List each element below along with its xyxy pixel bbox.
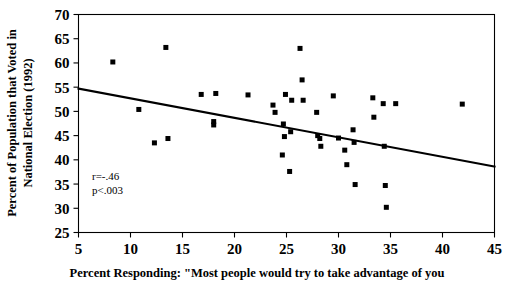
x-tick-label: 40 bbox=[435, 241, 450, 257]
data-point bbox=[352, 140, 357, 145]
regression-trend-line bbox=[79, 89, 495, 167]
correlation-annotation: r=-.46 bbox=[92, 170, 120, 182]
data-point bbox=[280, 152, 285, 157]
pvalue-annotation: p<.003 bbox=[92, 184, 123, 196]
x-tick-label: 30 bbox=[331, 241, 346, 257]
data-point bbox=[165, 136, 170, 141]
data-point bbox=[460, 102, 465, 107]
y-tick-label: 50 bbox=[55, 104, 70, 120]
data-point bbox=[336, 136, 341, 141]
y-tick-label: 55 bbox=[55, 80, 70, 96]
data-point bbox=[382, 144, 387, 149]
data-point bbox=[298, 46, 303, 51]
data-point bbox=[246, 92, 251, 97]
y-tick-label: 45 bbox=[55, 128, 70, 144]
data-point bbox=[300, 77, 305, 82]
data-point bbox=[381, 101, 386, 106]
data-point bbox=[282, 134, 287, 139]
x-tick-label: 10 bbox=[123, 241, 138, 257]
data-point bbox=[213, 91, 218, 96]
data-point bbox=[273, 110, 278, 115]
x-tick-label: 20 bbox=[227, 241, 242, 257]
data-point bbox=[199, 92, 204, 97]
data-point bbox=[301, 98, 306, 103]
y-tick-label: 65 bbox=[55, 31, 70, 47]
y-axis-ticks bbox=[74, 15, 79, 233]
y-axis-title-line2: National Election (1992) bbox=[21, 58, 35, 187]
y-tick-label: 25 bbox=[55, 225, 70, 241]
data-point bbox=[351, 127, 356, 132]
data-point bbox=[344, 162, 349, 167]
x-tick-label: 35 bbox=[383, 241, 398, 257]
data-point bbox=[314, 110, 319, 115]
data-point bbox=[317, 136, 322, 141]
data-point bbox=[211, 122, 216, 127]
data-point bbox=[289, 98, 294, 103]
x-tick-label: 45 bbox=[487, 241, 502, 257]
data-point bbox=[163, 45, 168, 50]
y-axis-tick-labels: 25303540455055606570 bbox=[55, 7, 70, 241]
data-point bbox=[152, 140, 157, 145]
data-point bbox=[384, 205, 389, 210]
trend-line-group bbox=[79, 89, 495, 167]
x-tick-label: 15 bbox=[175, 241, 190, 257]
data-point bbox=[370, 95, 375, 100]
data-point bbox=[393, 101, 398, 106]
y-axis-title-line1: Percent of Population that Voted in bbox=[5, 29, 19, 217]
chart-canvas: 25303540455055606570 51015202530354045 r… bbox=[0, 0, 514, 287]
x-tick-label: 25 bbox=[279, 241, 294, 257]
plot-frame bbox=[79, 15, 495, 233]
data-point bbox=[383, 183, 388, 188]
y-tick-label: 30 bbox=[55, 201, 70, 217]
data-point bbox=[318, 144, 323, 149]
x-axis-title: Percent Responding: "Most people would t… bbox=[70, 266, 445, 280]
data-point bbox=[136, 107, 141, 112]
data-point bbox=[110, 59, 115, 64]
data-point bbox=[283, 92, 288, 97]
x-axis-ticks bbox=[79, 233, 495, 238]
data-point bbox=[371, 115, 376, 120]
y-tick-label: 35 bbox=[55, 177, 70, 193]
data-point bbox=[270, 103, 275, 108]
x-tick-label: 5 bbox=[75, 241, 83, 257]
data-point bbox=[281, 121, 286, 126]
scatter-plot-figure: 25303540455055606570 51015202530354045 r… bbox=[0, 0, 514, 287]
y-tick-label: 70 bbox=[55, 7, 70, 23]
data-point bbox=[353, 182, 358, 187]
data-point bbox=[287, 169, 292, 174]
y-tick-label: 40 bbox=[55, 152, 70, 168]
y-tick-label: 60 bbox=[55, 55, 70, 71]
x-axis-tick-labels: 51015202530354045 bbox=[75, 241, 502, 257]
data-point bbox=[342, 148, 347, 153]
data-point bbox=[288, 129, 293, 134]
data-point bbox=[331, 93, 336, 98]
